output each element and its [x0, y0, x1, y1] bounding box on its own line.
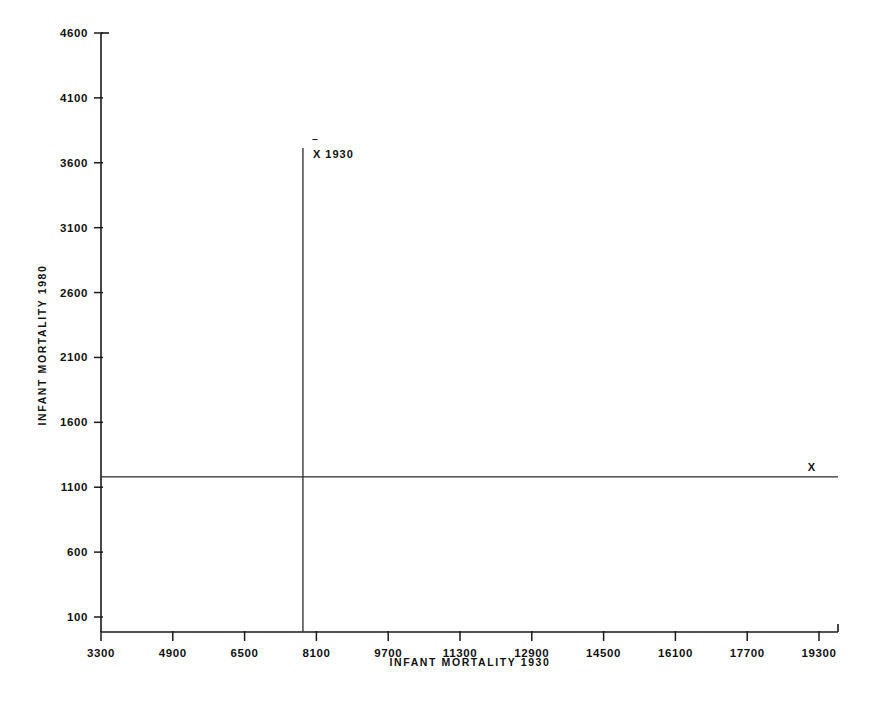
chart-canvas: 46004100360031002600210016001100600100 3…: [0, 0, 896, 701]
mean-1930-label-bar: ‾: [312, 138, 318, 150]
mean-1980-label-top: X: [808, 461, 816, 473]
x-tick-label: 19300: [802, 647, 837, 659]
x-axis-title: INFANT MORTALITY 1930: [390, 656, 551, 668]
y-tick-label: 3100: [60, 222, 88, 234]
x-tick-label: 8100: [302, 647, 330, 659]
x-tick-group: 3300490065008100970011300129001450016100…: [87, 631, 836, 659]
y-tick-group: 46004100360031002600210016001100600100: [60, 27, 103, 623]
x-tick-label: 4900: [159, 647, 187, 659]
reference-line-group: [101, 148, 838, 632]
y-tick-label: 3600: [60, 157, 88, 169]
axes-group: [101, 33, 838, 632]
x-tick-label: 3300: [87, 647, 115, 659]
x-tick-label: 16100: [658, 647, 693, 659]
y-tick-label: 100: [67, 611, 88, 623]
y-tick-label: 1100: [61, 481, 88, 493]
y-tick-label: 1600: [60, 416, 88, 428]
x-tick-label: 17700: [730, 647, 765, 659]
y-axis-title: INFANT MORTALITY 1980: [36, 265, 48, 426]
mean-label-group: X 1930 ‾ X: [312, 138, 816, 473]
y-tick-label: 4600: [60, 27, 88, 39]
y-tick-label: 600: [67, 546, 88, 558]
mean-1930-label: X 1930: [313, 148, 354, 160]
scatter-plot-figure: 46004100360031002600210016001100600100 3…: [0, 0, 896, 701]
y-tick-label: 2600: [60, 287, 88, 299]
x-tick-label: 14500: [586, 647, 621, 659]
x-tick-label: 6500: [231, 647, 259, 659]
y-tick-label: 2100: [60, 351, 88, 363]
y-tick-label: 4100: [60, 92, 88, 104]
